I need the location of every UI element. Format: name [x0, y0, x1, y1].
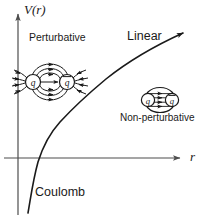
perturbative-label: Perturbative [29, 32, 86, 43]
flux-tube-inset: q q [141, 88, 178, 113]
y-axis-label: V(r) [24, 3, 46, 16]
antiquark-label: q [65, 78, 70, 88]
quark-label-tube: q [146, 96, 151, 106]
non-perturbative-label: Non-perturbative [120, 113, 194, 123]
x-axis-label: r [190, 150, 195, 163]
perturbative-dipole-inset: q q [12, 64, 88, 100]
quark-label: q [31, 78, 36, 88]
linear-label: Linear [127, 30, 162, 43]
potential-diagram: q q q q V(r) r Perturbative Linea [0, 0, 208, 215]
antiquark-label-tube: q [170, 96, 175, 106]
coulomb-label: Coulomb [35, 186, 85, 199]
